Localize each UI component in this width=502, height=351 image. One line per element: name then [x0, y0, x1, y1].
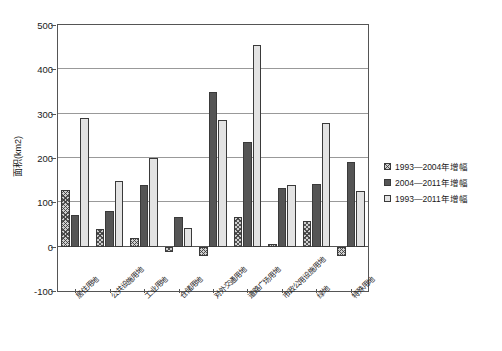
bar [278, 188, 287, 247]
y-tick-label: 300 [9, 108, 53, 119]
bar [149, 158, 158, 247]
bar [130, 238, 139, 247]
legend-label: 2004—2011年增幅 [395, 176, 468, 188]
legend-label: 1993—2004年增幅 [395, 160, 468, 172]
legend-item: 1993—2011年增幅 [384, 192, 500, 204]
y-tick-mark [51, 202, 56, 203]
y-tick-label: 400 [9, 64, 53, 75]
bar [356, 191, 365, 246]
bar [303, 221, 312, 247]
bar [174, 217, 183, 247]
y-tick-label: -100 [9, 286, 53, 297]
y-tick-label: 0 [9, 241, 53, 252]
bar-group [230, 25, 264, 291]
bar [184, 228, 193, 247]
bar-chart: 面积(km2) -1000100200300400500 居住用地公共设施用地工… [0, 0, 502, 351]
legend-item: 2004—2011年增幅 [384, 176, 500, 188]
bar-group [196, 25, 230, 291]
bar [268, 244, 277, 246]
y-tick-label: 500 [9, 20, 53, 31]
bar [287, 185, 296, 247]
bar [71, 215, 80, 247]
bar [61, 190, 70, 246]
bar [105, 211, 114, 246]
y-tick-label: 100 [9, 197, 53, 208]
bar-group [127, 25, 161, 291]
bar [218, 120, 227, 246]
y-tick-mark [51, 291, 56, 292]
y-tick-label: 200 [9, 153, 53, 164]
legend-swatch-icon [384, 195, 391, 202]
bar [115, 181, 124, 247]
x-axis-labels: 居住用地公共设施用地工业用地仓储用地对外交通用地道路广场用地市政公用设施用地绿地… [58, 293, 368, 351]
bar-group [299, 25, 333, 291]
bar [322, 123, 331, 247]
bar [337, 247, 346, 256]
y-tick-mark [51, 247, 56, 248]
bar-group [265, 25, 299, 291]
bar-group [334, 25, 368, 291]
bar [140, 185, 149, 247]
bar-group [58, 25, 92, 291]
legend-item: 1993—2004年增幅 [384, 160, 500, 172]
bar [199, 247, 208, 257]
bar [347, 162, 356, 246]
y-tick-mark [51, 114, 56, 115]
y-axis-ticks: -1000100200300400500 [0, 24, 53, 292]
bar [312, 184, 321, 247]
bar-group [92, 25, 126, 291]
bar [165, 247, 174, 252]
y-tick-mark [51, 69, 56, 70]
legend-swatch-icon [384, 163, 391, 170]
y-tick-mark [51, 25, 56, 26]
bar [243, 142, 252, 246]
legend-swatch-icon [384, 179, 391, 186]
y-tick-mark [51, 158, 56, 159]
bar [80, 118, 89, 247]
legend: 1993—2004年增幅2004—2011年增幅1993—2011年增幅 [384, 160, 500, 208]
legend-label: 1993—2011年增幅 [395, 192, 468, 204]
bar-group [161, 25, 195, 291]
bar [234, 217, 243, 247]
bar [96, 229, 105, 247]
bar [253, 45, 262, 247]
bar [209, 92, 218, 246]
bars-layer [58, 25, 368, 291]
